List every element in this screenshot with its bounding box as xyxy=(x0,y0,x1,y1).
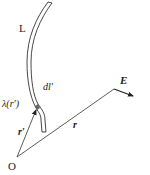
field-vector-E xyxy=(114,89,133,96)
element-label: dl′ xyxy=(43,81,54,92)
line-charge-diagram: L dl′ λ(r′) r′ r E O xyxy=(0,0,150,175)
line-element-dl xyxy=(35,104,40,110)
wire-curve-L xyxy=(27,2,52,132)
origin-label: O xyxy=(8,160,16,172)
density-label: λ(r′) xyxy=(1,98,20,110)
r-prime-label: r′ xyxy=(18,126,25,137)
position-vector-r xyxy=(17,89,114,157)
curve-label: L xyxy=(19,22,26,34)
r-label: r xyxy=(73,119,77,130)
E-label: E xyxy=(119,74,127,86)
